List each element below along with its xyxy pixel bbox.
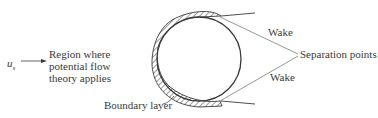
potential-flow-region-label: Region where potential flow theory appli… [49, 48, 111, 84]
region-label-line1: Region where [49, 48, 111, 60]
wake-label-upper: Wake [268, 26, 293, 38]
freestream-velocity-label: us [7, 57, 15, 74]
wake-label-lower: Wake [270, 71, 295, 83]
boundary-layer-label: Boundary layer [104, 99, 172, 111]
wake-line-lower [221, 101, 255, 104]
wake-line-upper [221, 13, 255, 16]
separation-points-label: Separation points [300, 48, 377, 60]
region-label-line3: theory applies [49, 72, 111, 84]
cylinder [157, 17, 241, 101]
arrow-head-icon [41, 59, 47, 63]
region-label-line2: potential flow [49, 60, 111, 72]
boundary-layer-region [152, 11, 222, 107]
